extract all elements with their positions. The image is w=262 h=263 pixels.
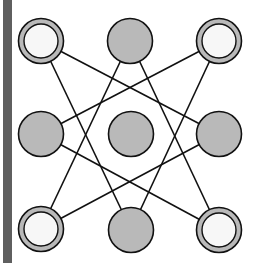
- node-top-right: [197, 19, 242, 64]
- node-center: [109, 112, 154, 157]
- node-bottom-left: [19, 207, 64, 252]
- node-top-left: [19, 19, 64, 64]
- node-top-middle: [108, 19, 153, 64]
- node-bottom-right: [197, 208, 242, 253]
- node-middle-left: [19, 112, 64, 157]
- knight-graph-diagram: [0, 0, 262, 263]
- node-bottom-middle: [109, 208, 154, 253]
- node-middle-right: [197, 112, 242, 157]
- nodes-layer: [19, 19, 242, 253]
